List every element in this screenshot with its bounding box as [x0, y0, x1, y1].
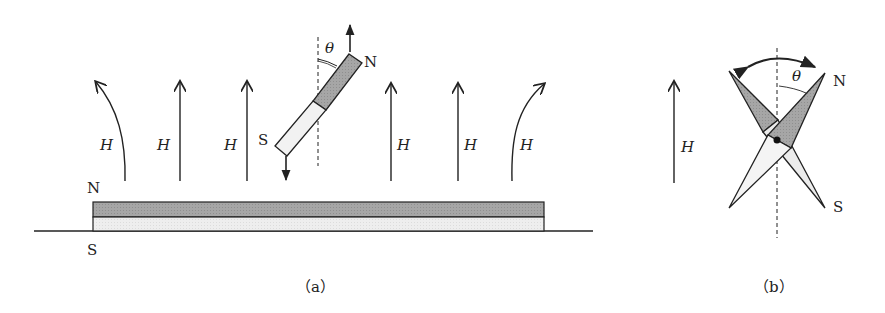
needle-south-label-b: S [833, 198, 843, 216]
field-label-h: H [99, 136, 114, 154]
angle-arc [318, 59, 337, 66]
field-label-h: H [223, 136, 238, 154]
pivot-dot [774, 137, 781, 144]
magnet-south-label: S [87, 241, 97, 259]
figure-b: H θ N S （b） [674, 48, 846, 296]
bar-magnet [93, 202, 544, 231]
field-label-h: H [680, 138, 695, 156]
angle-arc-b [779, 86, 806, 93]
caption-a: （a） [296, 278, 335, 296]
needle-north-label-b: N [833, 72, 846, 90]
angle-theta-label-b: θ [792, 67, 801, 85]
caption-b: （b） [754, 278, 794, 296]
field-label-h: H [519, 136, 534, 154]
field-label-h: H [463, 136, 478, 154]
angle-theta-label: θ [325, 39, 334, 57]
needle-north-label: N [364, 53, 377, 71]
magnet-north-label: N [87, 179, 100, 197]
field-line-curved-left [96, 82, 125, 181]
swing-arc [748, 59, 815, 68]
field-label-h: H [396, 136, 411, 154]
diagram-canvas: N S H H H H H H θ N S （a） H [0, 0, 885, 313]
field-line-curved-right [512, 84, 544, 181]
figure-a: N S H H H H H H θ N S （a） [34, 25, 593, 296]
field-label-h: H [156, 136, 171, 154]
compass-needle [275, 54, 362, 156]
needle-south-label: S [258, 131, 268, 149]
